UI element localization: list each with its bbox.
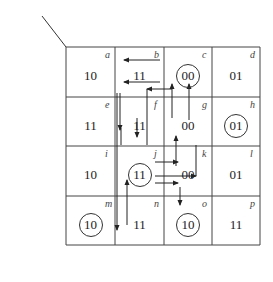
cell-label: p — [250, 198, 255, 209]
next-state-value: 01 — [221, 68, 251, 84]
corner-diagonal — [42, 16, 66, 47]
stable-state-value: 00 — [176, 64, 200, 88]
cell-label: l — [250, 148, 253, 159]
next-state-value: 00 — [173, 167, 203, 183]
next-state-value: 01 — [221, 167, 251, 183]
cell-label: g — [202, 99, 207, 110]
cell-label: b — [154, 49, 159, 60]
cell-label: f — [154, 99, 157, 110]
cell-label: e — [105, 99, 109, 110]
cell-label: d — [250, 49, 255, 60]
stable-state-value: 10 — [79, 213, 103, 237]
stable-state-value: 01 — [224, 114, 248, 138]
next-state-value: 11 — [125, 68, 155, 84]
stable-state-value: 11 — [128, 163, 152, 187]
next-state-value: 10 — [76, 167, 106, 183]
next-state-value: 10 — [76, 68, 106, 84]
cell-label: m — [105, 198, 112, 209]
cell-label: k — [202, 148, 206, 159]
next-state-value: 11 — [125, 217, 155, 233]
cell-label: h — [250, 99, 255, 110]
next-state-value: 11 — [125, 118, 155, 134]
cell-label: j — [154, 148, 157, 159]
karnaugh-grid — [0, 0, 273, 282]
next-state-value: 11 — [221, 217, 251, 233]
next-state-value: 11 — [76, 118, 106, 134]
cell-label: i — [105, 148, 108, 159]
stable-state-value: 10 — [176, 213, 200, 237]
cell-label: n — [154, 198, 159, 209]
next-state-value: 00 — [173, 118, 203, 134]
cell-label: a — [105, 49, 110, 60]
cell-label: c — [202, 49, 206, 60]
cell-label: o — [202, 198, 207, 209]
